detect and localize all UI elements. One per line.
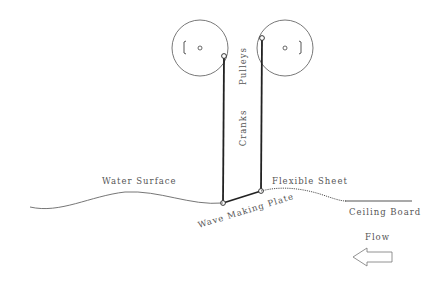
pin-icon	[222, 54, 227, 59]
wave-maker-diagram: Pulleys Cranks Water Surface Flexible Sh…	[0, 0, 437, 283]
wave-making-plate-label: Wave Making Plate	[197, 191, 295, 230]
flow-label: Flow	[365, 232, 390, 242]
right-pulley-icon	[257, 20, 313, 76]
pin-icon	[260, 36, 265, 41]
left-crank	[223, 56, 224, 203]
pulleys-label: Pulleys	[238, 47, 248, 85]
water-surface-line	[30, 192, 223, 209]
water-surface-label: Water Surface	[102, 176, 177, 186]
right-crank	[261, 38, 262, 191]
left-pulley-icon	[172, 20, 228, 76]
flexible-sheet-label: Flexible Sheet	[272, 176, 348, 186]
ceiling-board-label: Ceiling Board	[349, 207, 421, 217]
flow-arrow-icon	[353, 248, 392, 266]
cranks-label: Cranks	[238, 110, 248, 147]
wave-making-plate	[223, 191, 261, 203]
